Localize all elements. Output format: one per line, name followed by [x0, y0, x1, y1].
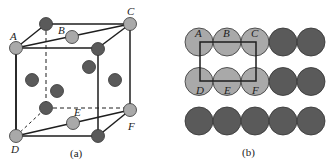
panel-a-cube: A B C D E F (a): [9, 5, 137, 160]
caption-a: (a): [70, 147, 83, 160]
figure: A B C D E F (a) A B C D E F (b): [0, 0, 334, 163]
plane-atom-dark: [269, 28, 297, 56]
plane-atom-dark: [241, 107, 269, 135]
atom-d: [10, 130, 23, 143]
label-c: C: [127, 5, 135, 17]
caption-b: (b): [242, 146, 255, 159]
atom-f: [124, 104, 137, 117]
plane-atom-dark: [297, 68, 325, 96]
label-b: B: [58, 24, 65, 36]
plane-atom-dark: [297, 107, 325, 135]
atom-face-front: [51, 85, 64, 98]
label-b-a: A: [194, 27, 202, 39]
label-d: D: [10, 143, 19, 155]
atom-face-right: [109, 74, 122, 87]
atom-e: [67, 117, 80, 130]
label-b-b: B: [223, 27, 230, 39]
plane-atom-dark: [185, 107, 213, 135]
atom-corner-back-top-left: [40, 18, 53, 31]
plane-atom-dark: [297, 28, 325, 56]
label-b-c: C: [251, 27, 259, 39]
label-e: E: [73, 106, 81, 118]
atom-corner-back-bottom-left: [40, 102, 53, 115]
atom-corner-front-top-right: [92, 43, 105, 56]
plane-atom-dark: [269, 68, 297, 96]
atom-a: [10, 42, 23, 55]
atom-b: [66, 31, 79, 44]
atom-c: [124, 18, 137, 31]
label-f: F: [127, 120, 135, 132]
plane-atom-dark: [213, 107, 241, 135]
atom-face-left: [26, 74, 39, 87]
atom-face-back: [83, 61, 96, 74]
label-b-f: F: [251, 84, 259, 96]
atom-corner-front-bottom-right: [92, 130, 105, 143]
plane-atom-dark: [269, 107, 297, 135]
label-a: A: [9, 30, 17, 42]
label-b-e: E: [223, 84, 231, 96]
label-b-d: D: [195, 84, 204, 96]
